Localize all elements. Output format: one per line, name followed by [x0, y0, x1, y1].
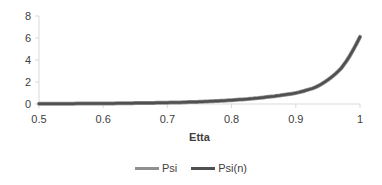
- y-tick-label: 4: [25, 54, 31, 66]
- series-line-psi: [39, 37, 360, 104]
- legend-item-psi: Psi: [135, 162, 177, 174]
- series-line-psi-n-: [39, 37, 360, 104]
- y-tick-label: 6: [25, 32, 31, 44]
- x-tick-label: 0.8: [224, 113, 239, 125]
- y-tick-label: 8: [25, 10, 31, 22]
- x-tick-label: 0.5: [31, 113, 46, 125]
- legend-swatch-psi-n: [191, 167, 215, 170]
- legend-label-psi: Psi: [162, 162, 177, 174]
- x-axis-label: Etta: [39, 131, 360, 143]
- legend-item-psi-n: Psi(n): [191, 162, 247, 174]
- legend-swatch-psi: [135, 167, 159, 170]
- x-tick-label: 0.9: [288, 113, 303, 125]
- y-tick-label: 0: [25, 98, 31, 110]
- legend-label-psi-n: Psi(n): [218, 162, 247, 174]
- x-tick-label: 0.6: [96, 113, 111, 125]
- x-tick-label: 1: [357, 113, 363, 125]
- legend: Psi Psi(n): [0, 162, 382, 174]
- y-tick-label: 2: [25, 76, 31, 88]
- x-tick-label: 0.7: [160, 113, 175, 125]
